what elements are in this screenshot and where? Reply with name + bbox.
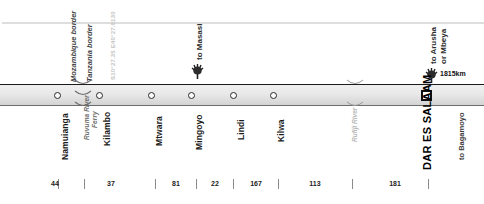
label-lindi: Lindi <box>237 119 246 140</box>
label-to-bagamoyo: to Bagamoyo <box>458 112 466 160</box>
scale-tick <box>352 179 353 189</box>
label-to-masasi: to Masasi <box>196 24 204 60</box>
scale-number: 22 <box>211 180 219 187</box>
label-to-arusha: to Arusha <box>430 27 438 64</box>
total-distance-label: 1815km <box>440 70 466 77</box>
scale-number: 37 <box>107 180 115 187</box>
scale-tick <box>84 179 85 189</box>
strip-map-canvas: 1815km Mozambique border Tanzania border… <box>0 0 484 204</box>
scale-tick <box>196 179 197 189</box>
scale-number: 44 <box>51 180 59 187</box>
tree-icon <box>190 62 204 78</box>
stop-marker[interactable] <box>188 92 195 99</box>
scale-number: 81 <box>172 180 180 187</box>
scale-tick <box>155 179 156 189</box>
scale-number: 167 <box>250 180 262 187</box>
label-ruvuma-river: Ruvuma River <box>84 95 91 140</box>
label-gps-coordinates: S10°27.35 E40°27.0130 <box>110 11 116 80</box>
label-tanzania-border: Tanzania border <box>86 24 94 82</box>
label-rufiji-river: Rufiji River <box>352 108 359 142</box>
scale-tick <box>278 179 279 189</box>
label-kilambo: Kilambo <box>103 112 112 146</box>
scale-number: 113 <box>309 180 320 187</box>
distance-scale: 44 37 81 22 167 113 181 <box>0 176 484 198</box>
scale-tick <box>428 179 429 189</box>
label-or-mbeya: or Mbeya <box>440 29 448 64</box>
stop-marker[interactable] <box>54 92 61 99</box>
label-kilwa: Kilwa <box>277 119 286 142</box>
scale-number: 181 <box>389 180 401 187</box>
stop-marker[interactable] <box>270 92 277 99</box>
stop-marker[interactable] <box>148 92 155 99</box>
label-mtwara: Mtwara <box>155 116 164 146</box>
stop-marker[interactable] <box>96 92 103 99</box>
scale-tick <box>233 179 234 189</box>
label-namuianga: Namuianga <box>61 113 70 160</box>
label-ferry: Ferry <box>92 111 99 128</box>
label-dar-es-salaam: DAR ES SALAAM <box>422 74 433 170</box>
label-mingoyo: Mingoyo <box>195 114 204 150</box>
label-mozambique-border: Mozambique border <box>70 11 78 82</box>
stop-marker[interactable] <box>230 92 237 99</box>
